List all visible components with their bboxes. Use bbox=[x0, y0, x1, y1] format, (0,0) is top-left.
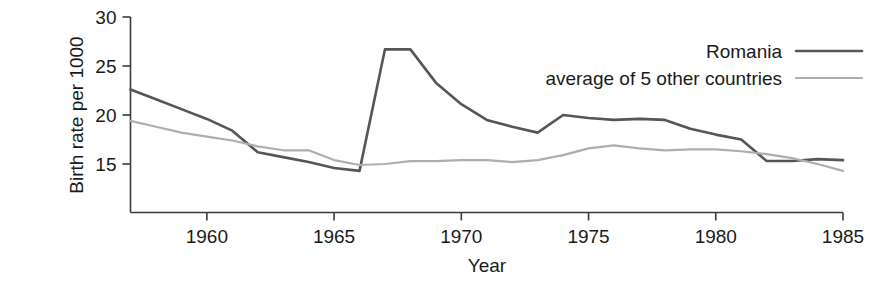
x-tick-1970: 1970 bbox=[440, 213, 482, 247]
y-axis-title-group: Birth rate per 1000 bbox=[66, 36, 87, 193]
y-tick-label: 20 bbox=[95, 105, 116, 126]
y-tick-20: 20 bbox=[95, 105, 130, 126]
y-tick-label: 15 bbox=[95, 154, 116, 175]
x-tick-label: 1965 bbox=[313, 226, 355, 247]
x-tick-label: 1975 bbox=[567, 226, 609, 247]
chart-figure: Birth rate per 1000 15202530 19601965197… bbox=[0, 0, 889, 293]
x-tick-1965: 1965 bbox=[313, 213, 355, 247]
legend-label: Romania bbox=[706, 41, 782, 62]
x-tick-label: 1985 bbox=[822, 226, 864, 247]
x-tick-1960: 1960 bbox=[186, 213, 228, 247]
x-tick-1975: 1975 bbox=[567, 213, 609, 247]
y-tick-label: 30 bbox=[95, 7, 116, 28]
x-tick-label: 1970 bbox=[440, 226, 482, 247]
x-tick-1985: 1985 bbox=[822, 213, 864, 247]
x-tick-1980: 1980 bbox=[695, 213, 737, 247]
x-axis-ticks: 196019651970197519801985 bbox=[186, 213, 864, 247]
chart-legend: Romaniaaverage of 5 other countries bbox=[545, 41, 862, 89]
y-tick-25: 25 bbox=[95, 56, 130, 77]
y-axis-ticks: 15202530 bbox=[95, 7, 130, 175]
x-tick-label: 1980 bbox=[695, 226, 737, 247]
x-tick-label: 1960 bbox=[186, 226, 228, 247]
series-line-1 bbox=[131, 121, 844, 171]
y-tick-label: 25 bbox=[95, 56, 116, 77]
x-axis-title: Year bbox=[468, 255, 507, 276]
legend-entry-0: Romania bbox=[706, 41, 862, 62]
y-tick-15: 15 bbox=[95, 154, 130, 175]
y-tick-30: 30 bbox=[95, 7, 130, 28]
legend-entry-1: average of 5 other countries bbox=[545, 68, 862, 89]
legend-label: average of 5 other countries bbox=[545, 68, 782, 89]
y-axis-title: Birth rate per 1000 bbox=[66, 36, 87, 193]
birth-rate-line-chart: Birth rate per 1000 15202530 19601965197… bbox=[0, 0, 889, 293]
